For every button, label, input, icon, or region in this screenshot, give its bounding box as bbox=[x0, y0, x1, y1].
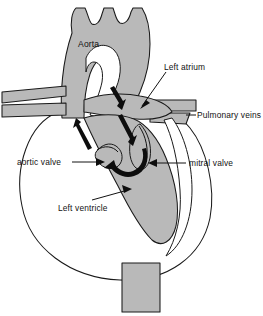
pulmonary-vein-upper-left bbox=[2, 86, 66, 103]
heart-diagram-figure: Aorta Left atrium Pulmonary veins aortic… bbox=[0, 0, 263, 316]
label-pulmonary-veins: Pulmonary veins bbox=[197, 110, 261, 120]
heart-diagram-svg: Aorta Left atrium Pulmonary veins aortic… bbox=[0, 0, 263, 316]
pulmonary-vein-lower-left bbox=[2, 103, 66, 117]
label-aortic-valve: aortic valve bbox=[17, 157, 61, 167]
label-aorta: Aorta bbox=[78, 39, 99, 49]
label-left-atrium: Left atrium bbox=[164, 62, 205, 72]
descending-aorta bbox=[122, 263, 160, 312]
label-mitral-valve: mitral valve bbox=[189, 158, 233, 168]
label-left-ventricle: Left ventricle bbox=[58, 203, 108, 213]
